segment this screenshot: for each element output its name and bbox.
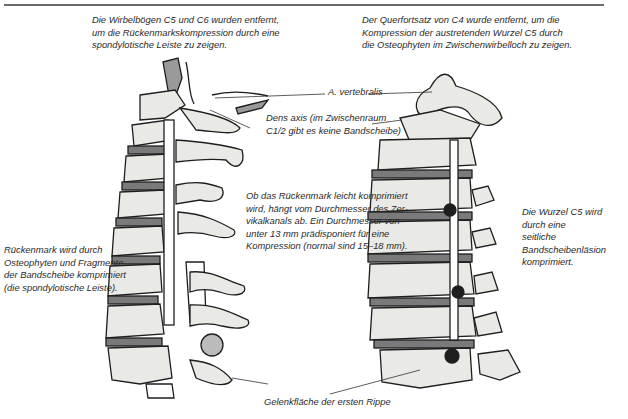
left-cervical-spine (106, 58, 268, 398)
label-a-vertebralis: A. vertebralis (328, 86, 383, 99)
left-top-caption: Die Wirbelbögen C5 und C6 wurden entfern… (92, 14, 280, 52)
label-canal-diameter-note: Ob das Rückenmark leicht komprimiert wir… (246, 190, 408, 253)
right-side-caption: Die Wurzel C5 wird durch eine seitliche … (522, 206, 628, 269)
right-top-caption: Der Querfortsatz von C4 wurde entfernt, … (362, 14, 572, 52)
left-side-caption: Rückenmark wird durch Osteophyten und Fr… (4, 244, 126, 294)
label-first-rib-facet: Gelenkfläche der ersten Rippe (264, 396, 391, 409)
label-dens-axis: Dens axis (im Zwischenraum C1/2 gibt es … (266, 112, 401, 137)
